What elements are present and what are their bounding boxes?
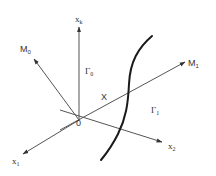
- m0-label: M0: [20, 44, 32, 55]
- x2-label: x2: [168, 141, 176, 152]
- xk-label: xk: [75, 14, 83, 25]
- m0-ray: [34, 59, 79, 120]
- boundary-curve: [101, 36, 152, 160]
- m1-label: M1: [188, 58, 200, 69]
- x1-label: x1: [12, 156, 20, 167]
- gamma0-label: Γ0: [85, 66, 93, 77]
- gamma1-label: Γ1: [151, 105, 159, 116]
- coordinate-diagram: xk M0 M1 x1 x2 0 X Γ0 Γ1: [0, 0, 216, 176]
- origin-label: 0: [76, 118, 81, 128]
- point-x-label: X: [101, 92, 107, 102]
- x1-axis: [23, 120, 79, 154]
